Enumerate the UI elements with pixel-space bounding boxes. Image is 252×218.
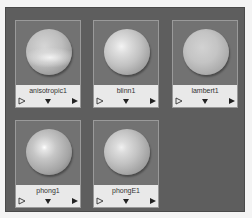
output-connection-icon[interactable] <box>149 197 157 205</box>
chevron-down-icon[interactable] <box>44 97 52 105</box>
material-card-anisotropic1[interactable]: anisotropic1 <box>15 20 81 108</box>
material-card-blinn1[interactable]: blinn1 <box>93 20 159 108</box>
input-connection-icon[interactable] <box>96 197 104 205</box>
chevron-down-icon[interactable] <box>201 97 209 105</box>
material-swatch <box>173 21 237 85</box>
material-label-strip: phongE1 <box>94 185 158 207</box>
output-connection-icon[interactable] <box>71 97 79 105</box>
sphere-preview-icon <box>104 29 150 75</box>
material-label-strip: blinn1 <box>94 85 158 107</box>
input-connection-icon[interactable] <box>18 97 26 105</box>
output-connection-icon[interactable] <box>228 97 236 105</box>
material-card-phong1[interactable]: phong1 <box>15 120 81 208</box>
sphere-preview-icon <box>183 29 229 75</box>
material-name: anisotropic1 <box>16 86 80 95</box>
sphere-preview-icon <box>104 129 150 175</box>
material-label-strip: phong1 <box>16 185 80 207</box>
chevron-down-icon[interactable] <box>122 97 130 105</box>
material-name: blinn1 <box>94 86 158 95</box>
hypershade-materials-panel: anisotropic1 blinn1 <box>5 7 245 212</box>
material-name: phong1 <box>16 186 80 195</box>
material-swatch <box>16 121 80 185</box>
material-label-strip: anisotropic1 <box>16 85 80 107</box>
material-name: lambert1 <box>173 86 237 95</box>
input-connection-icon[interactable] <box>18 197 26 205</box>
sphere-preview-icon <box>26 129 72 175</box>
material-swatch <box>94 21 158 85</box>
input-connection-icon[interactable] <box>175 97 183 105</box>
material-card-phongE1[interactable]: phongE1 <box>93 120 159 208</box>
output-connection-icon[interactable] <box>149 97 157 105</box>
sphere-preview-icon <box>26 29 72 75</box>
input-connection-icon[interactable] <box>96 97 104 105</box>
material-swatch <box>94 121 158 185</box>
chevron-down-icon[interactable] <box>122 197 130 205</box>
material-card-lambert1[interactable]: lambert1 <box>172 20 238 108</box>
material-label-strip: lambert1 <box>173 85 237 107</box>
output-connection-icon[interactable] <box>71 197 79 205</box>
chevron-down-icon[interactable] <box>44 197 52 205</box>
material-swatch <box>16 21 80 85</box>
material-name: phongE1 <box>94 186 158 195</box>
